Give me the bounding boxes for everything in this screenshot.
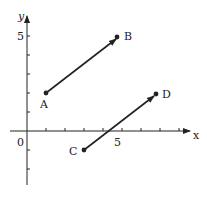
label-b: B xyxy=(124,30,132,43)
vector-ab xyxy=(46,39,116,93)
x-tick-label-5: 5 xyxy=(114,136,121,149)
label-c: C xyxy=(69,145,77,158)
coordinate-plane: y x 0 5 5 A B C D xyxy=(0,0,207,197)
label-d: D xyxy=(162,88,171,101)
x-axis-label: x xyxy=(193,129,200,142)
origin-label: 0 xyxy=(17,136,24,149)
point-d xyxy=(154,92,159,97)
point-b xyxy=(115,35,120,40)
y-tick-label-5: 5 xyxy=(17,30,24,43)
label-a: A xyxy=(39,98,49,111)
point-a xyxy=(44,91,49,96)
y-axis-label: y xyxy=(17,10,25,23)
point-c xyxy=(82,148,87,153)
